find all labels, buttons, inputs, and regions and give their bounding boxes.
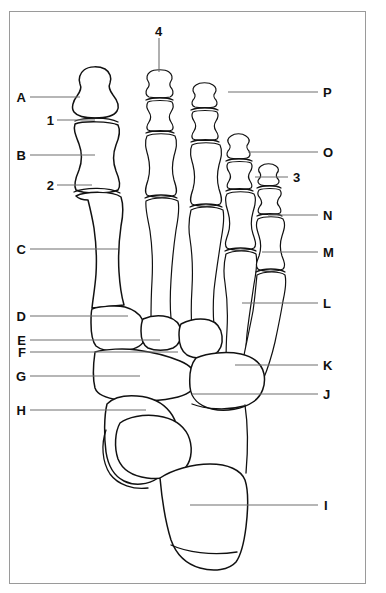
bone-toe2-middle-phalanx xyxy=(147,101,173,132)
label-D: D xyxy=(12,310,26,323)
bone-toe3-distal-phalanx xyxy=(192,83,217,108)
joint-toe4-distal-interphalangeal xyxy=(226,159,252,161)
bone-lateral-cuneiform xyxy=(179,319,222,358)
bone-toe4-middle-phalanx xyxy=(227,162,252,190)
joint-toe2-distal-interphalangeal xyxy=(146,98,173,100)
bone-hallux-distal-phalanx xyxy=(73,67,119,118)
bone-intermediate-cuneiform xyxy=(141,316,181,350)
label-L: L xyxy=(323,297,331,310)
bone-second-metatarsal xyxy=(146,198,179,321)
bone-cuboid xyxy=(190,353,265,411)
label-K: K xyxy=(323,359,332,372)
label-1: 1 xyxy=(40,114,54,127)
bone-toe3-proximal-phalanx xyxy=(190,143,221,207)
label-B: B xyxy=(12,149,26,162)
bone-toe5-proximal-phalanx xyxy=(256,217,284,272)
label-N: N xyxy=(323,209,332,222)
joint-toe5-distal-interphalangeal xyxy=(257,186,281,188)
label-J: J xyxy=(323,388,330,401)
bone-toe5-distal-phalanx xyxy=(258,164,279,186)
bone-toe4-proximal-phalanx xyxy=(225,192,255,251)
bone-toe4-distal-phalanx xyxy=(227,134,250,159)
bone-hallux-proximal-phalanx xyxy=(74,122,119,193)
bone-toe5-middle-phalanx xyxy=(258,189,281,215)
bone-toe2-distal-phalanx xyxy=(146,70,173,98)
joint-lateral-foot-border xyxy=(245,405,247,473)
label-2: 2 xyxy=(40,179,54,192)
bone-toe2-proximal-phalanx xyxy=(145,134,176,198)
bone-third-metatarsal xyxy=(189,207,224,330)
foot-skeleton-figure: A 1 B 2 C D E F G H P O 3 N M L K J I 4 xyxy=(0,0,386,593)
label-M: M xyxy=(323,246,334,259)
bone-navicular xyxy=(94,349,197,401)
joint-toe3-distal-interphalangeal xyxy=(191,108,218,110)
bone-first-metatarsal xyxy=(76,192,124,308)
label-F: F xyxy=(12,346,26,359)
label-H: H xyxy=(12,404,26,417)
bone-medial-cuneiform xyxy=(91,306,145,351)
label-O: O xyxy=(323,146,333,159)
label-P: P xyxy=(323,86,332,99)
label-4: 4 xyxy=(155,25,162,38)
label-C: C xyxy=(12,243,26,256)
label-G: G xyxy=(12,370,26,383)
label-3: 3 xyxy=(293,171,300,184)
label-I: I xyxy=(324,499,328,512)
bone-toe3-middle-phalanx xyxy=(192,111,218,141)
label-A: A xyxy=(12,91,26,104)
bone-calcaneus xyxy=(160,464,248,570)
